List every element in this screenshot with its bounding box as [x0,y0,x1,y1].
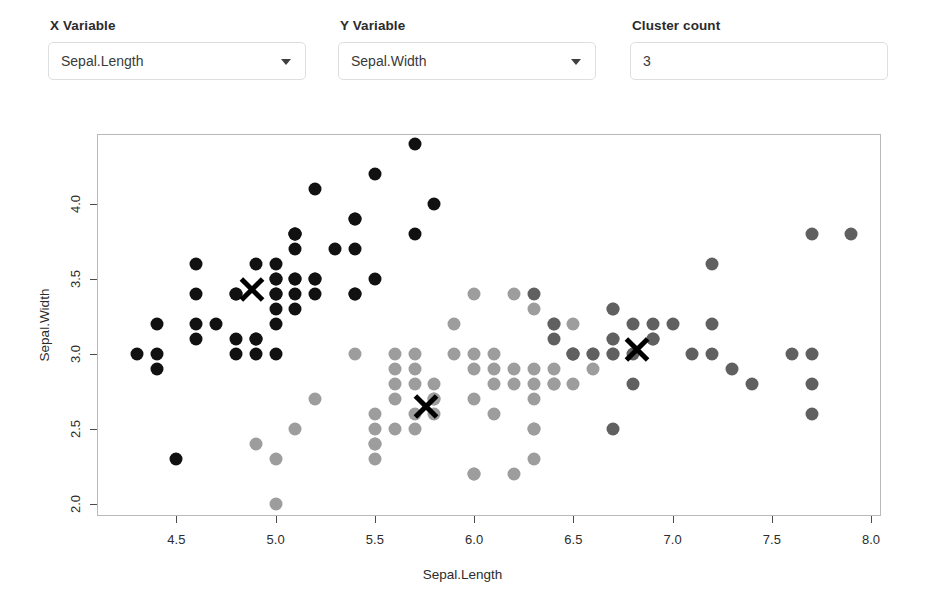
x-axis-tick [474,516,475,523]
x-axis-tick-label: 6.0 [465,532,483,547]
y-axis-tick-label: 2.5 [68,420,83,438]
x-axis-tick-label: 8.0 [862,532,880,547]
x-axis-tick-label: 6.5 [564,532,582,547]
x-axis-label: Sepal.Length [0,567,925,582]
x-axis-tick [772,516,773,523]
plot-frame [97,134,881,516]
y-axis-tick-label: 3.0 [68,345,83,363]
y-axis-tick-label: 2.0 [68,495,83,513]
y-axis-label: Sepal.Width [37,289,52,362]
x-axis-tick [673,516,674,523]
y-axis-tick [90,279,97,280]
x-axis-tick-label: 7.0 [664,532,682,547]
x-axis-tick-label: 5.0 [267,532,285,547]
x-axis-tick [375,516,376,523]
y-axis-tick-label: 3.5 [68,270,83,288]
x-axis-tick [871,516,872,523]
scatter-plot: 4.55.05.56.06.57.07.58.02.02.53.03.54.0 … [0,0,925,615]
x-axis-tick [573,516,574,523]
x-axis-tick [276,516,277,523]
y-axis-tick [90,504,97,505]
x-axis-tick-label: 4.5 [167,532,185,547]
x-axis-tick-label: 7.5 [763,532,781,547]
y-axis-tick [90,204,97,205]
y-axis-tick [90,354,97,355]
y-axis-tick [90,429,97,430]
x-axis-tick [176,516,177,523]
y-axis-tick-label: 4.0 [68,195,83,213]
x-axis-tick-label: 5.5 [366,532,384,547]
